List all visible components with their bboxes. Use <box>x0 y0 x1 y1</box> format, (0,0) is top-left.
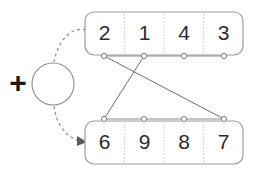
top-port-1[interactable] <box>101 53 106 58</box>
bottom-port-2[interactable] <box>141 116 146 121</box>
operator-node[interactable] <box>32 63 74 105</box>
top-cell-3: 4 <box>178 21 190 44</box>
flow-top-to-operator <box>54 29 86 62</box>
bottom-cell-1: 6 <box>99 130 111 153</box>
top-cell-4: 3 <box>218 21 230 44</box>
top-register[interactable]: 2 1 4 3 <box>85 12 243 55</box>
flow-operator-to-bottom <box>54 106 80 141</box>
top-cell-1: 2 <box>99 21 111 44</box>
diagram-svg: + 2 1 4 3 6 9 8 7 <box>0 0 256 177</box>
bottom-port-1[interactable] <box>101 116 106 121</box>
operator-symbol: + <box>9 66 27 99</box>
bottom-port-3[interactable] <box>181 116 186 121</box>
bottom-cell-3: 8 <box>178 130 190 153</box>
top-cell-2: 1 <box>139 21 151 44</box>
top-port-4[interactable] <box>221 53 226 58</box>
bottom-register[interactable]: 6 9 8 7 <box>85 121 243 164</box>
bottom-port-4[interactable] <box>221 116 226 121</box>
top-port-2[interactable] <box>141 53 146 58</box>
bottom-cell-2: 9 <box>139 130 151 153</box>
connection-top2-bottom1[interactable] <box>104 56 144 119</box>
diagram-canvas: + 2 1 4 3 6 9 8 7 <box>0 0 256 177</box>
bottom-cell-4: 7 <box>218 130 230 153</box>
top-port-3[interactable] <box>181 53 186 58</box>
connection-top1-bottom4[interactable] <box>104 56 224 119</box>
